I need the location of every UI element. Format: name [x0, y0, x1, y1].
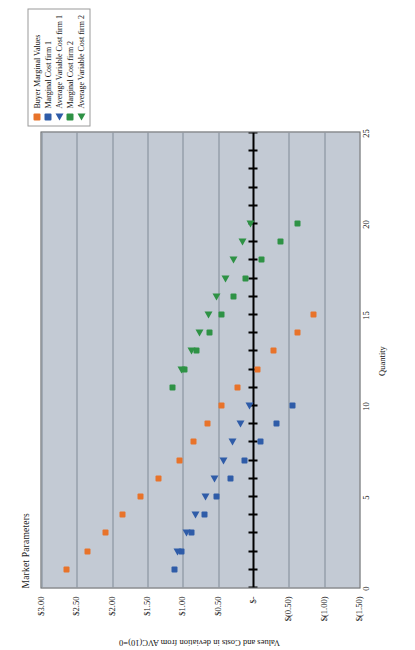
data-point: [273, 420, 279, 426]
data-point: [155, 475, 161, 481]
axis-tick-mark: [248, 277, 257, 279]
data-point: [206, 329, 212, 335]
data-point: [102, 529, 108, 535]
gridline: [218, 132, 219, 587]
gridline: [112, 132, 113, 587]
data-point: [310, 311, 316, 317]
x-axis-title: Quantity: [376, 133, 386, 588]
x-tick-label: 10: [360, 402, 370, 411]
data-point: [210, 475, 218, 482]
legend-item[interactable]: Average Variable Cost firm 2: [76, 15, 85, 120]
gridline: [324, 132, 325, 587]
axis-tick-mark: [248, 186, 257, 188]
y-tick-label: $3.00: [35, 596, 45, 615]
x-axis-tick-labels: 0510152025: [360, 133, 374, 588]
gridline: [182, 132, 183, 587]
data-point: [63, 566, 69, 572]
y-tick-label: $2.50: [70, 596, 80, 615]
axis-tick-mark: [248, 477, 257, 479]
data-point: [204, 311, 212, 318]
data-point: [221, 275, 229, 282]
data-point: [218, 311, 224, 317]
x-tick-label: 15: [360, 311, 370, 320]
axis-tick-mark: [248, 386, 257, 388]
legend-triangle-icon: [77, 113, 85, 120]
data-point: [270, 347, 276, 353]
axis-tick-mark: [248, 586, 257, 588]
data-point: [119, 511, 125, 517]
data-point: [171, 566, 177, 572]
data-point: [173, 548, 181, 555]
data-point: [201, 493, 209, 500]
data-point: [230, 293, 236, 299]
data-point: [242, 275, 248, 281]
axis-tick-mark: [248, 258, 257, 260]
axis-tick-mark: [248, 167, 257, 169]
data-point: [191, 511, 199, 518]
data-point: [177, 366, 185, 373]
axis-tick-mark: [248, 459, 257, 461]
axis-tick-mark: [248, 495, 257, 497]
data-point: [238, 238, 246, 245]
axis-tick-mark: [248, 422, 257, 424]
y-tick-label: $1.50: [141, 596, 151, 615]
y-axis-tick-labels: $3.00$2.50$2.00$1.50$1.00$0.50$-$(0.50)$…: [40, 592, 358, 650]
y-tick-label: $(1.50): [353, 596, 363, 621]
data-point: [234, 384, 240, 390]
data-point: [294, 220, 300, 226]
legend-item-label: Average Variable Cost firm 1: [54, 15, 63, 108]
y-tick-label: $-: [247, 596, 257, 603]
data-point: [187, 347, 195, 354]
axis-tick-mark: [248, 295, 257, 297]
legend-triangle-icon: [55, 113, 63, 120]
gridline: [76, 132, 77, 587]
data-point: [137, 493, 143, 499]
axis-tick-mark: [248, 531, 257, 533]
legend-item[interactable]: Average Variable Cost firm 1: [54, 15, 63, 120]
legend-item-label: Marginal Cost firm 2: [65, 40, 74, 108]
gridline: [41, 132, 42, 587]
axis-tick-mark: [248, 331, 257, 333]
data-point: [289, 402, 295, 408]
legend-square-icon: [33, 113, 40, 120]
x-tick-label: 20: [360, 220, 370, 229]
axis-tick-mark: [248, 568, 257, 570]
axis-tick-mark: [248, 513, 257, 515]
page-title: Market Parameters: [20, 513, 30, 588]
axis-tick-mark: [248, 204, 257, 206]
y-tick-label: $(1.00): [318, 596, 328, 621]
data-point: [195, 329, 203, 336]
legend-square-icon: [44, 113, 51, 120]
legend-item-label: Marginal Cost firm 1: [43, 40, 52, 108]
data-point: [213, 493, 219, 499]
x-tick-label: 0: [360, 586, 370, 590]
legend-item-label: Buyer Marginal Values: [32, 34, 41, 108]
legend-square-icon: [66, 113, 73, 120]
legend-item[interactable]: Buyer Marginal Values: [32, 15, 41, 120]
data-point: [236, 420, 244, 427]
data-point: [277, 238, 283, 244]
data-point: [204, 420, 210, 426]
y-tick-label: $0.50: [212, 596, 222, 615]
zero-axis-line: [252, 132, 254, 587]
data-point: [176, 457, 182, 463]
rotated-figure-wrapper: Market Parameters Buyer Marginal ValuesM…: [0, 0, 415, 650]
axis-tick-mark: [248, 440, 257, 442]
chart-legend: Buyer Marginal ValuesMarginal Cost firm …: [27, 8, 90, 126]
axis-tick-mark: [248, 349, 257, 351]
data-point: [246, 220, 254, 227]
data-point: [258, 256, 264, 262]
data-point: [182, 529, 190, 536]
axis-tick-mark: [248, 240, 257, 242]
x-tick-label: 5: [360, 495, 370, 499]
data-point: [245, 402, 253, 409]
axis-tick-mark: [248, 131, 257, 133]
data-point: [212, 293, 220, 300]
legend-item[interactable]: Marginal Cost firm 1: [43, 15, 52, 120]
chart-page: Market Parameters Buyer Marginal ValuesM…: [0, 0, 415, 650]
data-point: [229, 256, 237, 263]
y-tick-label: $2.00: [106, 596, 116, 615]
plot-area: [40, 131, 360, 588]
axis-tick-mark: [248, 149, 257, 151]
legend-item[interactable]: Marginal Cost firm 2: [65, 15, 74, 120]
